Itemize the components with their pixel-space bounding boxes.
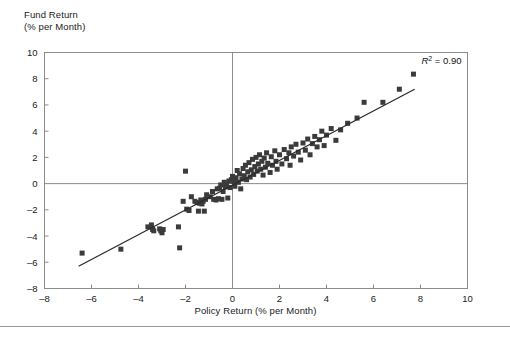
data-point (181, 199, 186, 204)
data-point (315, 144, 320, 149)
y-tick-label-2: 2 (32, 152, 37, 163)
data-point (118, 247, 123, 252)
data-point (279, 161, 284, 166)
data-point (269, 154, 274, 159)
fit-line (79, 89, 415, 266)
data-point (411, 72, 416, 77)
data-points (80, 72, 416, 256)
y-tick-label-8: 8 (32, 73, 37, 84)
y-tick-label--6: –6 (27, 257, 38, 268)
y-tick-label--4: –4 (27, 231, 38, 242)
y-tick-label-10: 10 (27, 47, 38, 58)
data-point (397, 87, 402, 92)
data-point (202, 209, 207, 214)
data-point (264, 150, 269, 155)
data-point (176, 224, 181, 229)
x-tick-label-8: 8 (418, 293, 423, 304)
y-tick-label--2: –2 (27, 204, 38, 215)
y-tick-label-4: 4 (32, 126, 37, 137)
data-point (268, 170, 273, 175)
data-point (301, 140, 306, 145)
data-point (80, 251, 85, 256)
y-tick-label--8: –8 (27, 283, 38, 294)
x-tick-label-4: 4 (324, 293, 329, 304)
data-point (277, 152, 282, 157)
x-tick-label-10: 10 (462, 293, 473, 304)
data-point (289, 144, 294, 149)
data-point (329, 126, 334, 131)
page-divider (0, 326, 510, 327)
data-point (161, 227, 166, 232)
data-point (177, 245, 182, 250)
y-tick-label-6: 6 (32, 99, 37, 110)
data-point (219, 197, 224, 202)
x-tick-label--6: –6 (86, 293, 97, 304)
data-point (238, 186, 243, 191)
data-point (303, 148, 308, 153)
x-tick-label--2: –2 (180, 293, 191, 304)
data-point (380, 100, 385, 105)
data-point (305, 137, 310, 142)
x-tick-label-6: 6 (371, 293, 376, 304)
data-point (275, 167, 280, 172)
data-point (183, 169, 188, 174)
data-point (225, 196, 230, 201)
data-point (257, 152, 262, 157)
data-point (210, 189, 215, 194)
data-point (319, 129, 324, 134)
data-point (196, 209, 201, 214)
data-point (298, 158, 303, 163)
data-point (272, 148, 277, 153)
x-tick-label-0: 0 (230, 293, 235, 304)
data-point (262, 156, 267, 161)
r-squared-text: R2 = 0.90 (421, 54, 461, 66)
y-tick-label-0: 0 (32, 178, 37, 189)
data-point (288, 163, 293, 168)
data-point (237, 171, 242, 176)
data-point (151, 228, 156, 233)
data-point (333, 138, 338, 143)
x-tick-label--8: –8 (39, 293, 50, 304)
data-point (308, 152, 313, 157)
x-axis-title: Policy Return (% per Month) (44, 305, 467, 316)
scatter-plot-figure: Fund Return (% per Month) –8–6–4–2024681… (0, 0, 510, 337)
plot-canvas: –8–6–4–20246810–8–6–4–20246810 R2 = 0.90 (0, 0, 510, 337)
data-point (322, 143, 327, 148)
x-tick-label--4: –4 (133, 293, 144, 304)
data-point (362, 100, 367, 105)
regression-line (79, 89, 415, 266)
r-squared-annotation: R2 = 0.90 (421, 54, 461, 66)
data-point (293, 142, 298, 147)
data-point (282, 147, 287, 152)
data-point (189, 194, 194, 199)
data-point (312, 134, 317, 139)
x-tick-label-2: 2 (277, 293, 282, 304)
data-point (261, 173, 266, 178)
